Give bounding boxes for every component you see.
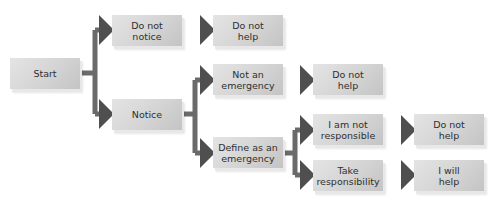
bystander-decision-flowchart: Start Do not notice Do not help Notice N… xyxy=(0,0,497,204)
node-label: Do not help xyxy=(332,69,364,91)
node-label: Take responsibility xyxy=(316,165,379,187)
node-label: Notice xyxy=(132,109,162,120)
node-label: Define as an emergency xyxy=(218,142,278,164)
node-label: Not an emergency xyxy=(221,69,274,91)
node-label: I will help xyxy=(438,165,460,187)
node-start: Start xyxy=(10,58,80,89)
node-i-will-help: I will help xyxy=(414,160,484,191)
node-i-am-not-responsible: I am not responsible xyxy=(313,114,383,145)
node-do-not-help-3: Do not help xyxy=(414,114,484,145)
node-label: Start xyxy=(33,68,56,79)
node-define-as-emergency: Define as an emergency xyxy=(213,137,283,168)
node-label: Do not notice xyxy=(131,20,163,42)
node-label: Do not help xyxy=(433,119,465,141)
node-do-not-help-1: Do not help xyxy=(213,15,283,46)
node-take-responsibility: Take responsibility xyxy=(313,160,383,191)
node-notice: Notice xyxy=(112,99,182,130)
node-not-an-emergency: Not an emergency xyxy=(213,64,283,95)
node-label: I am not responsible xyxy=(321,119,375,141)
node-do-not-help-2: Do not help xyxy=(313,64,383,95)
node-do-not-notice: Do not notice xyxy=(112,15,182,46)
node-label: Do not help xyxy=(232,20,264,42)
